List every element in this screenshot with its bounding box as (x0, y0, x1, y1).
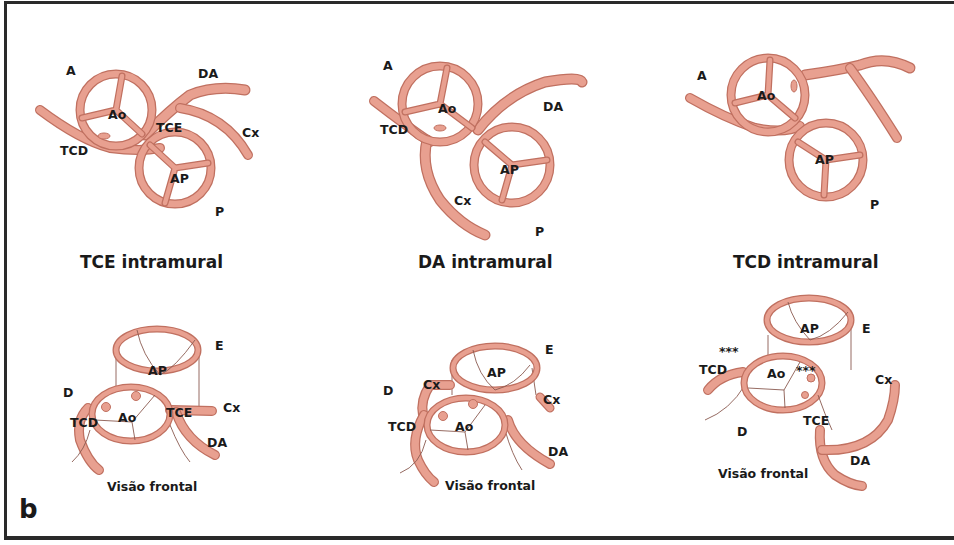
label-e: E (545, 342, 554, 357)
label-tcd: TCD (70, 415, 98, 430)
panel-title: TCD intramural (733, 252, 879, 272)
panel-da-intramural: A DA Ao TCD Cx AP P DA intramural (374, 58, 582, 272)
panel-title: TCE intramural (80, 252, 223, 272)
label-ap: AP (487, 365, 506, 380)
label-tce: TCE (803, 413, 829, 428)
label-ap: AP (815, 152, 834, 167)
label-ap: AP (148, 363, 167, 378)
label-a: A (697, 68, 707, 83)
panel-frontal-view-1: E AP D Ao TCD TCE Cx DA Visão frontal (63, 329, 240, 494)
label-p: P (870, 197, 879, 212)
panel-tcd-intramural: A Ao AP P TCD intramural (690, 58, 910, 272)
label-stars-left: *** (719, 344, 739, 359)
panel-frontal-view-2: E AP D Cx Cx TCD Ao DA Visão frontal (383, 342, 568, 493)
label-da: DA (548, 444, 568, 459)
label-d: D (737, 424, 747, 439)
label-da: DA (543, 99, 563, 114)
label-ao: Ao (108, 107, 127, 122)
label-ao: Ao (757, 88, 776, 103)
label-ao: Ao (438, 101, 457, 116)
label-a: A (383, 58, 393, 73)
label-a: A (66, 63, 76, 78)
label-tcd: TCD (380, 122, 408, 137)
label-da: DA (198, 66, 218, 81)
label-cx-right: Cx (543, 392, 560, 407)
label-d: D (63, 385, 73, 400)
label-p: P (215, 204, 224, 219)
vessel-da (478, 79, 582, 130)
view-subtitle: Visão frontal (718, 466, 808, 481)
label-ao: Ao (118, 410, 137, 425)
label-ap: AP (500, 162, 519, 177)
label-ao: Ao (767, 366, 786, 381)
panel-title: DA intramural (418, 252, 553, 272)
vessel-tce-da-cx (820, 385, 895, 486)
label-cx-left: Cx (423, 377, 440, 392)
view-subtitle: Visão frontal (107, 479, 197, 494)
view-subtitle: Visão frontal (445, 478, 535, 493)
label-tcd: TCD (388, 419, 416, 434)
label-tce: TCE (166, 405, 192, 420)
label-stars-right: *** (796, 363, 816, 378)
panel-letter: b (19, 494, 38, 524)
label-ap: AP (170, 171, 189, 186)
label-da: DA (207, 435, 227, 450)
label-tcd: TCD (60, 143, 88, 158)
label-e: E (215, 338, 224, 353)
label-cx: Cx (242, 125, 259, 140)
vessel-tcd (705, 372, 745, 420)
label-d: D (383, 383, 393, 398)
label-da: DA (850, 453, 870, 468)
pulmonary-ring (139, 132, 211, 204)
panel-frontal-view-3: AP E *** TCD Ao *** Cx TCE D DA Visão fr… (699, 298, 895, 486)
label-cx: Cx (454, 193, 471, 208)
panel-tce-intramural: A DA Ao TCE TCD Cx AP P TCE intramural (40, 63, 259, 272)
label-tce: TCE (156, 120, 182, 135)
label-ap: AP (800, 321, 819, 336)
label-cx: Cx (223, 400, 240, 415)
label-tcd: TCD (699, 362, 727, 377)
label-p: P (535, 224, 544, 239)
vessel-da (505, 420, 550, 470)
label-cx: Cx (875, 372, 892, 387)
label-e: E (862, 321, 871, 336)
label-ao: Ao (455, 419, 474, 434)
